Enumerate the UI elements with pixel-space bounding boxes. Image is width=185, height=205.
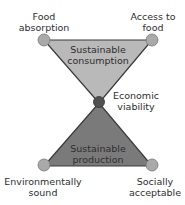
label-sustainable-consumption: Sustainable consumption [66,44,130,66]
label-line: consumption [66,55,130,66]
label-line: food [128,22,178,33]
node-top-right [146,34,158,46]
node-center [94,97,105,108]
label-environmentally-sound: Environmentally sound [4,176,82,198]
hourglass-diagram: Food absorption Access to food Sustainab… [0,0,185,205]
label-line: Sustainable [66,44,130,55]
node-bottom-left [38,159,50,171]
label-line: absorption [16,22,72,33]
label-line: acceptable [126,187,184,198]
node-top-left [38,34,50,46]
label-line: viability [110,101,162,112]
label-line: Food [16,11,72,22]
label-food-absorption: Food absorption [16,11,72,33]
label-line: Access to [128,11,178,22]
label-line: sound [4,187,82,198]
node-bottom-right [146,159,158,171]
label-line: Sustainable [66,143,130,154]
label-line: Environmentally [4,176,82,187]
label-line: production [66,154,130,165]
label-access-to-food: Access to food [128,11,178,33]
label-line: Economic [110,90,162,101]
label-socially-acceptable: Socially acceptable [126,176,184,198]
label-line: Socially [126,176,184,187]
label-sustainable-production: Sustainable production [66,143,130,165]
label-economic-viability: Economic viability [110,90,162,112]
